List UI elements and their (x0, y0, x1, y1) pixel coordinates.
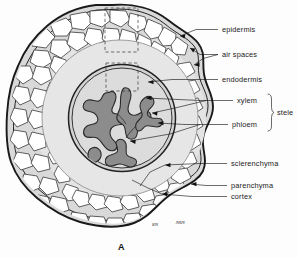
label-endodermis: endodermis (222, 75, 262, 84)
figure-caption: A (118, 242, 125, 252)
label-phloem: phloem (232, 120, 257, 129)
label-text-group: epidermis air spaces endodermis xylem ph… (222, 25, 293, 201)
artist-signature-group: ʁɴ ɴʀɴ (152, 219, 186, 227)
label-parenchyma: parenchyma (231, 181, 274, 190)
label-air-spaces: air spaces (222, 50, 257, 59)
label-sclerenchyma: sclerenchyma (231, 159, 279, 168)
label-epidermis: epidermis (222, 25, 256, 34)
stele-bracket (268, 94, 274, 131)
label-cortex: cortex (231, 192, 252, 201)
diagram-canvas: epidermis air spaces endodermis xylem ph… (0, 0, 298, 258)
label-xylem: xylem (237, 96, 257, 105)
signature-left: ʁɴ (152, 221, 159, 227)
label-stele: stele (277, 108, 293, 117)
signature-right: ɴʀɴ (175, 219, 186, 225)
root-cross-section-figure: epidermis air spaces endodermis xylem ph… (0, 0, 298, 258)
